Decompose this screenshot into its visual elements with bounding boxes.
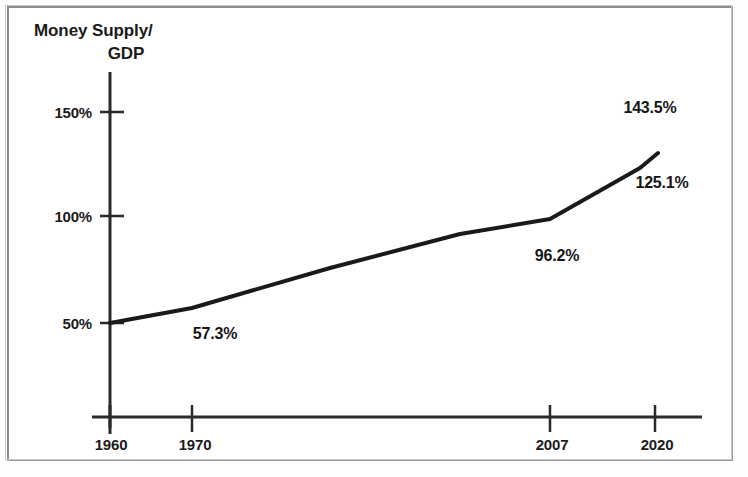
x-tick-label-2020: 2020 (641, 436, 674, 453)
data-line-money-supply-gdp (110, 153, 658, 323)
chart-title-line-2: GDP (30, 43, 250, 66)
chart-title-line-1: Money Supply/ (30, 20, 250, 43)
x-tick-label-1960: 1960 (95, 436, 128, 453)
x-tick-label-2007: 2007 (536, 436, 569, 453)
chart-canvas (0, 0, 748, 477)
plot-area: Money Supply/ GDP 150% 100% 50% 1960 197… (0, 0, 748, 477)
y-tick-label-150: 150% (30, 104, 92, 121)
data-label-2020-low: 125.1% (635, 174, 688, 192)
y-tick-label-100: 100% (30, 208, 92, 225)
data-label-2007: 96.2% (535, 247, 579, 265)
y-tick-label-50: 50% (30, 315, 92, 332)
chart-title: Money Supply/ GDP (30, 20, 250, 65)
x-tick-label-1970: 1970 (179, 436, 212, 453)
data-label-1970: 57.3% (193, 325, 237, 343)
data-label-2020-high: 143.5% (623, 99, 676, 117)
chart-figure: Money Supply/ GDP 150% 100% 50% 1960 197… (0, 0, 748, 477)
